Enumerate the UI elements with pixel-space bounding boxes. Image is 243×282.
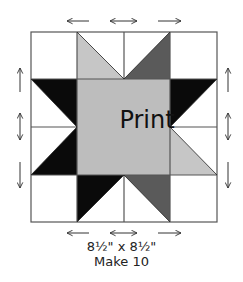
block-size-label: 8½" x 8½": [0, 239, 243, 254]
center-label: Print: [77, 106, 217, 134]
quantity-label: Make 10: [0, 254, 243, 269]
